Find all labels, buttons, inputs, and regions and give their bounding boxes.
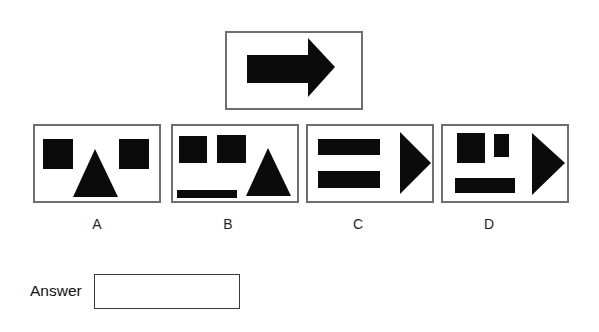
option-box-c bbox=[306, 124, 434, 203]
right-arrow-icon bbox=[227, 33, 361, 108]
option-d-shapes-icon bbox=[443, 126, 567, 201]
option-box-d bbox=[441, 124, 569, 203]
option-label-b: B bbox=[223, 217, 232, 231]
option-a-shapes-icon bbox=[35, 126, 159, 201]
option-label-d: D bbox=[484, 217, 494, 231]
option-box-a bbox=[33, 124, 161, 203]
answer-label: Answer bbox=[30, 283, 82, 299]
option-box-b bbox=[171, 124, 299, 203]
option-label-a: A bbox=[92, 217, 101, 231]
option-c-shapes-icon bbox=[308, 126, 432, 201]
question-page: A B C D Answer bbox=[0, 0, 599, 332]
answer-input[interactable] bbox=[94, 274, 240, 309]
option-b-shapes-icon bbox=[173, 126, 297, 201]
option-label-c: C bbox=[353, 217, 363, 231]
stimulus-box bbox=[225, 31, 363, 110]
